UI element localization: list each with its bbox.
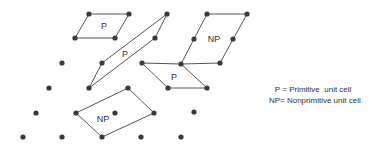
lattice-point	[217, 60, 222, 65]
lattice-point	[178, 134, 183, 139]
lattice-point	[112, 110, 117, 115]
lattice-point	[86, 85, 91, 90]
lattice-point	[59, 134, 64, 139]
legend-key: P	[268, 84, 280, 95]
lattice-point	[204, 85, 209, 90]
lattice-point	[112, 35, 117, 40]
lattice-point	[164, 11, 169, 16]
lattice-point	[139, 60, 144, 65]
lattice-point	[165, 85, 170, 90]
lattice-points	[20, 11, 249, 139]
cell-label: P	[122, 49, 128, 59]
legend-text: Nonprimitive unit cell	[287, 96, 361, 105]
legend: P = Primitive unit cell NP= Nonprimitive…	[268, 84, 361, 106]
lattice-point	[73, 110, 78, 115]
lattice-point	[230, 36, 235, 41]
lattice-point	[191, 109, 196, 114]
lattice-point	[72, 35, 77, 40]
lattice-point	[86, 11, 91, 16]
legend-key: NP	[268, 95, 280, 106]
lattice-point	[152, 35, 157, 40]
lattice-point	[125, 85, 130, 90]
lattice-diagram: PPNPPNP	[0, 0, 389, 151]
cell-label: NP	[97, 114, 110, 124]
lattice-point	[138, 134, 143, 139]
legend-item-primitive: P = Primitive unit cell	[268, 84, 361, 95]
lattice-point	[33, 110, 38, 115]
cell-label: P	[101, 21, 107, 31]
lattice-point	[191, 36, 196, 41]
lattice-point	[178, 61, 183, 66]
legend-text: Primitive unit cell	[289, 85, 351, 94]
lattice-point	[99, 134, 104, 139]
lattice-point	[20, 134, 25, 139]
cell-label: P	[171, 72, 177, 82]
cell-label: NP	[208, 34, 221, 44]
lattice-point	[151, 110, 156, 115]
lattice-point	[99, 60, 104, 65]
lattice-point	[126, 11, 131, 16]
lattice-point	[59, 60, 64, 65]
lattice-point	[244, 11, 249, 16]
legend-separator: =	[280, 96, 287, 105]
lattice-point	[204, 11, 209, 16]
lattice-point	[46, 85, 51, 90]
legend-separator: =	[280, 85, 289, 94]
legend-item-nonprimitive: NP= Nonprimitive unit cell	[268, 95, 361, 106]
